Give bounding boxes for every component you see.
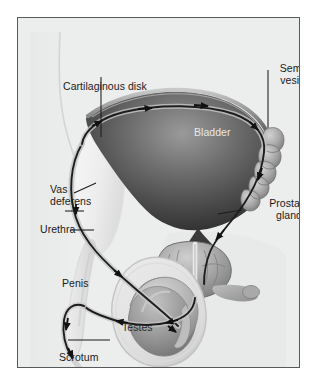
- label-prostate-gland-line1: Prostate: [269, 197, 300, 209]
- label-vas-deferens: Vasdeferens: [50, 183, 91, 207]
- label-penis: Penis: [62, 277, 89, 289]
- label-seminal-vesicles: Seminalvesicles: [246, 62, 300, 86]
- label-cartilaginous-disk: Cartilaginous disk: [63, 80, 147, 92]
- label-scrotum: Scrotum: [59, 351, 98, 363]
- anatomy-figure: Cartilaginous disk Seminalvesicles Bladd…: [0, 0, 317, 387]
- label-prostate-gland: Prostategland: [258, 197, 300, 221]
- label-seminal-vesicles-line2: vesicles: [280, 74, 300, 86]
- label-bladder: Bladder: [194, 126, 231, 138]
- figure-plate: Cartilaginous disk Seminalvesicles Bladd…: [17, 17, 300, 368]
- label-seminal-vesicles-line1: Seminal: [280, 62, 300, 74]
- label-vas-deferens-line1: Vas: [50, 183, 67, 195]
- label-testes: Testes: [122, 321, 153, 333]
- label-vas-deferens-line2: deferens: [50, 195, 91, 207]
- label-urethra: Urethra: [40, 223, 75, 235]
- label-prostate-gland-line2: gland: [276, 209, 300, 221]
